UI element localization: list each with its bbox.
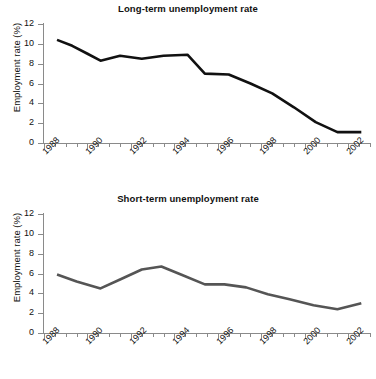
x-tick-minor bbox=[240, 334, 241, 337]
x-tick-minor bbox=[77, 334, 78, 337]
y-tick bbox=[38, 313, 43, 314]
x-tick-label: 1998 bbox=[258, 326, 279, 347]
y-tick bbox=[38, 24, 43, 25]
x-tick-minor bbox=[196, 334, 197, 337]
x-tick-label: 1996 bbox=[215, 136, 236, 157]
y-tick-label: 0 bbox=[8, 328, 34, 337]
x-tick-minor bbox=[294, 144, 295, 147]
x-tick-minor bbox=[109, 334, 110, 337]
x-tick-minor bbox=[283, 334, 284, 337]
x-tick-minor bbox=[370, 334, 371, 337]
x-tick-label: 1998 bbox=[258, 136, 279, 157]
y-tick bbox=[38, 64, 43, 65]
series-line-short-term bbox=[57, 267, 361, 310]
x-tick-minor bbox=[337, 144, 338, 147]
y-tick-label: 8 bbox=[8, 59, 34, 68]
x-tick-label: 1992 bbox=[128, 326, 149, 347]
y-tick-label: 4 bbox=[8, 288, 34, 297]
x-tick-minor bbox=[164, 144, 165, 147]
y-tick-label: 4 bbox=[8, 98, 34, 107]
x-tick-label: 1994 bbox=[171, 326, 192, 347]
y-tick bbox=[38, 123, 43, 124]
x-tick-minor bbox=[153, 144, 154, 147]
x-tick-minor bbox=[250, 144, 251, 147]
y-tick-label: 2 bbox=[8, 118, 34, 127]
x-tick-label: 1992 bbox=[128, 136, 149, 157]
y-tick bbox=[38, 293, 43, 294]
chart-panel-short-term: Short-term unemployment rate Employment … bbox=[0, 190, 376, 379]
y-tick bbox=[38, 44, 43, 45]
x-tick-minor bbox=[327, 334, 328, 337]
y-tick bbox=[38, 103, 43, 104]
y-axis-line bbox=[43, 23, 44, 144]
chart-panel-long-term: Long-term unemployment rate Employment r… bbox=[0, 0, 376, 189]
y-tick-label: 12 bbox=[8, 209, 34, 218]
y-tick-label: 10 bbox=[8, 39, 34, 48]
x-tick-minor bbox=[66, 334, 67, 337]
series-svg-long-term bbox=[0, 0, 376, 189]
x-tick-minor bbox=[294, 334, 295, 337]
x-tick-minor bbox=[164, 334, 165, 337]
chart-title-short-term: Short-term unemployment rate bbox=[0, 193, 376, 204]
y-tick bbox=[38, 274, 43, 275]
x-tick-minor bbox=[196, 144, 197, 147]
x-tick-label: 1988 bbox=[41, 136, 62, 157]
y-tick-label: 6 bbox=[8, 269, 34, 278]
chart-title-long-term: Long-term unemployment rate bbox=[0, 3, 376, 14]
y-tick-label: 8 bbox=[8, 249, 34, 258]
series-line-long-term bbox=[57, 40, 361, 132]
x-tick-minor bbox=[153, 334, 154, 337]
x-tick-minor bbox=[240, 144, 241, 147]
x-tick-minor bbox=[327, 144, 328, 147]
x-tick-minor bbox=[250, 334, 251, 337]
x-tick-label: 1994 bbox=[171, 136, 192, 157]
y-tick bbox=[38, 214, 43, 215]
x-tick-label: 1990 bbox=[84, 326, 105, 347]
x-tick-label: 1996 bbox=[215, 326, 236, 347]
x-tick-label: 2002 bbox=[345, 326, 366, 347]
y-tick-label: 10 bbox=[8, 229, 34, 238]
x-tick-minor bbox=[77, 144, 78, 147]
x-tick-minor bbox=[337, 334, 338, 337]
x-tick-label: 2000 bbox=[302, 136, 323, 157]
x-tick-label: 1988 bbox=[41, 326, 62, 347]
x-tick-label: 1990 bbox=[84, 136, 105, 157]
x-tick-minor bbox=[109, 144, 110, 147]
x-tick-minor bbox=[66, 144, 67, 147]
x-tick-label: 2000 bbox=[302, 326, 323, 347]
x-tick-minor bbox=[283, 144, 284, 147]
x-tick-minor bbox=[120, 334, 121, 337]
y-axis-line bbox=[43, 213, 44, 334]
x-tick-minor bbox=[207, 334, 208, 337]
y-tick bbox=[38, 254, 43, 255]
y-tick-label: 6 bbox=[8, 79, 34, 88]
y-tick-label: 2 bbox=[8, 308, 34, 317]
series-svg-short-term bbox=[0, 190, 376, 379]
y-tick bbox=[38, 333, 43, 334]
y-tick bbox=[38, 84, 43, 85]
y-tick-label: 12 bbox=[8, 19, 34, 28]
figure-container: Long-term unemployment rate Employment r… bbox=[0, 0, 376, 379]
x-tick-label: 2002 bbox=[345, 136, 366, 157]
x-tick-minor bbox=[370, 144, 371, 147]
y-tick bbox=[38, 234, 43, 235]
x-tick-minor bbox=[120, 144, 121, 147]
y-tick bbox=[38, 143, 43, 144]
y-tick-label: 0 bbox=[8, 138, 34, 147]
x-tick-minor bbox=[207, 144, 208, 147]
